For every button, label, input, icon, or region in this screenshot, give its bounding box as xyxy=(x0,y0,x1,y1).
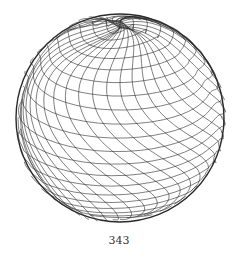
page-number: 343 xyxy=(0,234,238,247)
sphere-wireframe-figure xyxy=(0,0,238,230)
